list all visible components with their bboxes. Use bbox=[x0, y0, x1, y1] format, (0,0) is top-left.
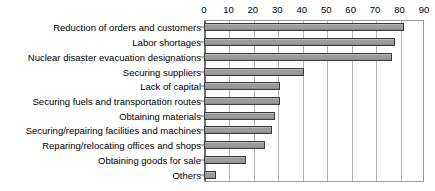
bar-track bbox=[204, 20, 424, 35]
bar-track bbox=[204, 79, 424, 94]
bar bbox=[204, 97, 280, 105]
chart-row: Reparing/relocating offices and shops bbox=[0, 138, 435, 153]
category-label: Others bbox=[172, 169, 201, 180]
bar bbox=[204, 171, 216, 179]
bar bbox=[204, 112, 275, 120]
bar-track bbox=[204, 35, 424, 50]
bar-track bbox=[204, 108, 424, 123]
category-label: Nuclear disaster evacuation designations bbox=[28, 51, 201, 62]
category-label: Obtaining goods for sale bbox=[98, 154, 201, 165]
category-label: Lack of capital bbox=[140, 81, 201, 92]
chart-row: Securing/repairing facilities and machin… bbox=[0, 123, 435, 138]
x-tick-label-20: 20 bbox=[248, 4, 259, 16]
bar bbox=[204, 126, 272, 134]
x-tick-label-50: 50 bbox=[321, 4, 332, 16]
x-tick-label-70: 70 bbox=[370, 4, 381, 16]
chart-row: Labor shortages bbox=[0, 35, 435, 50]
x-axis-tick-labels: 0102030405060708090 bbox=[204, 4, 424, 18]
bar-track bbox=[204, 167, 424, 182]
x-tick-label-60: 60 bbox=[345, 4, 356, 16]
bar-track bbox=[204, 64, 424, 79]
bar bbox=[204, 38, 395, 46]
category-label: Reduction of orders and customers bbox=[53, 22, 201, 33]
x-tick-label-0: 0 bbox=[201, 4, 206, 16]
x-tick-label-80: 80 bbox=[394, 4, 405, 16]
bar-track bbox=[204, 138, 424, 153]
bar bbox=[204, 68, 304, 76]
category-label: Obtaining materials bbox=[119, 110, 201, 121]
bar-track bbox=[204, 152, 424, 167]
chart-rows: Reduction of orders and customersLabor s… bbox=[0, 20, 435, 182]
category-label: Securing fuels and transportation routes bbox=[33, 95, 201, 106]
bar bbox=[204, 141, 265, 149]
bar-track bbox=[204, 49, 424, 64]
x-tick-label-10: 10 bbox=[223, 4, 234, 16]
bar-track bbox=[204, 94, 424, 109]
chart-row: Obtaining goods for sale bbox=[0, 152, 435, 167]
chart-row: Others bbox=[0, 167, 435, 182]
chart-row: Reduction of orders and customers bbox=[0, 20, 435, 35]
bar-chart: 0102030405060708090 Reduction of orders … bbox=[0, 0, 435, 191]
category-label: Reparing/relocating offices and shops bbox=[42, 140, 201, 151]
chart-row: Obtaining materials bbox=[0, 108, 435, 123]
chart-row: Securing fuels and transportation routes bbox=[0, 94, 435, 109]
category-label: Labor shortages bbox=[132, 37, 201, 48]
x-tick-label-30: 30 bbox=[272, 4, 283, 16]
bar bbox=[204, 156, 246, 164]
bar-track bbox=[204, 123, 424, 138]
x-tick-label-90: 90 bbox=[419, 4, 430, 16]
chart-row: Securing suppliers bbox=[0, 64, 435, 79]
category-label: Securing/repairing facilities and machin… bbox=[26, 125, 201, 136]
bar bbox=[204, 82, 280, 90]
x-tick-label-40: 40 bbox=[296, 4, 307, 16]
bar bbox=[204, 23, 404, 31]
bar bbox=[204, 53, 392, 61]
category-label: Securing suppliers bbox=[123, 66, 201, 77]
chart-row: Nuclear disaster evacuation designations bbox=[0, 49, 435, 64]
chart-row: Lack of capital bbox=[0, 79, 435, 94]
